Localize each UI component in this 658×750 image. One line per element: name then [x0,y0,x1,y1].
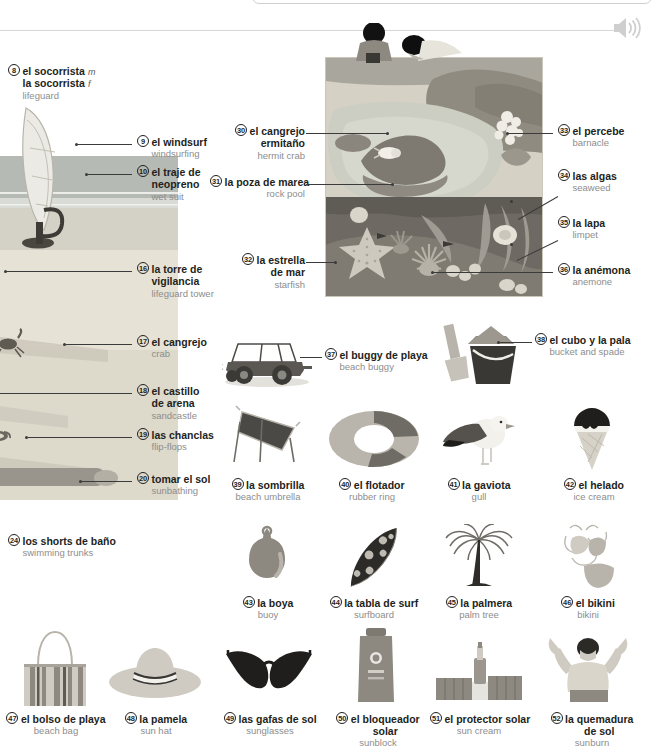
number-badge: 42 [564,478,576,490]
number-badge: 46 [561,596,573,608]
number-badge: 30 [235,124,247,136]
number-badge: 40 [339,478,351,490]
label-es: el castillo [152,385,200,397]
label-en: surfboard [326,609,422,620]
label-44-surfboard[interactable]: 44la tabla de surf surfboard [326,596,422,620]
label-20-sunbathing[interactable]: 20tomar el sol sunbathing [137,472,210,497]
label-42-ice-cream[interactable]: 42el helado ice cream [558,478,630,502]
label-37-beach-buggy[interactable]: 37el buggy de playa beach buggy [325,348,428,373]
label-35-limpet[interactable]: 35la lapa limpet [558,216,605,241]
label-es-2: de mar [215,266,305,278]
label-en: starfish [215,279,305,290]
search-box[interactable] [252,0,652,4]
label-41-gull[interactable]: 41la gaviota gull [436,478,522,502]
label-45-palm-tree[interactable]: 45la palmera palm tree [436,596,522,620]
label-30-hermit-crab[interactable]: 30el cangrejo ermitaño hermit crab [215,124,305,161]
number-badge: 20 [137,472,149,484]
leader-line-18 [0,393,132,394]
icon-bucket-and-spade[interactable] [428,322,520,392]
label-50-sunblock[interactable]: 50el bloqueador solar sunblock [332,712,424,748]
icon-palm-tree[interactable] [442,524,516,592]
label-24-swimming-trunks[interactable]: 24los shorts de baño swimming trunks [8,534,116,559]
label-en: gull [436,491,522,502]
icon-sun-hat[interactable] [108,646,202,706]
label-38-bucket-and-spade[interactable]: 38el cubo y la pala bucket and spade [535,333,631,358]
number-badge: 19 [137,428,149,440]
label-33-barnacle[interactable]: 33el percebe barnacle [558,124,624,149]
icon-sun-cream[interactable] [436,640,522,706]
icon-sunburn[interactable] [540,632,636,706]
icon-sunglasses[interactable] [224,648,314,704]
label-16-lifeguard-tower[interactable]: 16la torre de vigilancia lifeguard tower [137,262,214,299]
leader-dot-36 [431,271,434,274]
label-39-beach-umbrella[interactable]: 39la sombrilla beach umbrella [222,478,314,502]
label-36-anemone[interactable]: 36la anémona anemone [558,263,630,288]
label-31-rock-pool[interactable]: 31la poza de marea rock pool [210,175,305,200]
label-es-2: de arena [137,397,199,409]
label-en: sunglasses [224,725,316,736]
label-es: la quemadura [565,713,633,725]
label-46-bikini[interactable]: 46el bikini bikini [548,596,628,620]
label-19-flipflops[interactable]: 19las chanclas flip-flops [137,428,214,453]
label-en: flip-flops [137,441,214,452]
label-en: beach umbrella [222,491,314,502]
label-8-lifeguard[interactable]: 8el socorrista m la socorrista f lifegua… [8,64,148,101]
number-badge: 50 [336,712,348,724]
leader-line-16 [6,271,132,272]
label-52-sunburn[interactable]: 52la quemadura de sol sunburn [540,712,644,748]
label-en: sunblock [332,737,424,748]
label-en: sunbathing [137,485,210,496]
label-49-sunglasses[interactable]: 49las gafas de sol sunglasses [224,712,316,736]
leader-dot-20 [79,480,82,483]
leader-line-37 [300,357,322,358]
speaker-icon[interactable] [610,14,644,42]
label-34-seaweed[interactable]: 34las algas seaweed [558,169,617,194]
label-es: los shorts de baño [23,535,116,547]
icon-ice-cream[interactable] [568,408,616,472]
number-badge: 48 [125,712,137,724]
label-10-wetsuit[interactable]: 10el traje de neopreno wet suit [137,165,201,202]
icon-rubber-ring[interactable] [328,410,420,468]
icon-sunblock[interactable] [354,628,398,706]
label-es: la poza de marea [225,176,310,188]
label-en: palm tree [436,609,522,620]
number-badge: 17 [137,335,149,347]
label-es: el percebe [573,125,625,137]
label-es-2: de sol [540,725,644,737]
label-en: beach bag [0,725,112,736]
leader-dot-33 [506,132,509,135]
label-en: rock pool [210,188,305,199]
label-es: el cubo y la pala [550,334,631,346]
leader-line-38 [500,342,532,343]
label-51-sun-cream[interactable]: 51el protector solar sun cream [430,712,528,736]
header-divider [0,30,620,31]
icon-bikini[interactable] [552,524,624,592]
label-32-starfish[interactable]: 32la estrella de mar starfish [215,253,305,290]
icon-beach-umbrella[interactable] [232,404,302,466]
leader-dot-19 [25,436,28,439]
label-es: la lapa [573,217,606,229]
label-48-sun-hat[interactable]: 48la pamela sun hat [116,712,196,736]
icon-gull[interactable] [443,412,515,470]
number-badge: 36 [558,263,570,275]
icon-beach-bag[interactable] [20,630,90,706]
label-es: tomar el sol [152,473,211,485]
label-es-2: neopreno [137,178,201,190]
label-43-buoy[interactable]: 43la boya buoy [232,596,304,620]
icon-buoy[interactable] [238,524,296,590]
label-en: hermit crab [215,150,305,161]
label-es: el cangrejo [152,336,207,348]
icon-surfboard[interactable] [332,524,414,592]
label-47-beach-bag[interactable]: 47el bolso de playa beach bag [0,712,112,736]
label-40-rubber-ring[interactable]: 40el flotador rubber ring [322,478,422,502]
label-18-sandcastle[interactable]: 18el castillo de arena sandcastle [137,384,199,421]
icon-beach-buggy[interactable] [222,330,312,388]
leader-line-17 [66,344,132,345]
label-es: la torre de [152,263,203,275]
label-17-crab[interactable]: 17el cangrejo crab [137,335,207,360]
label-9-windsurfing[interactable]: 9el windsurf windsurfing [137,135,207,160]
label-en: crab [137,348,207,359]
number-badge: 9 [137,135,149,147]
number-badge: 10 [137,165,149,177]
leader-dot-16 [4,270,7,273]
